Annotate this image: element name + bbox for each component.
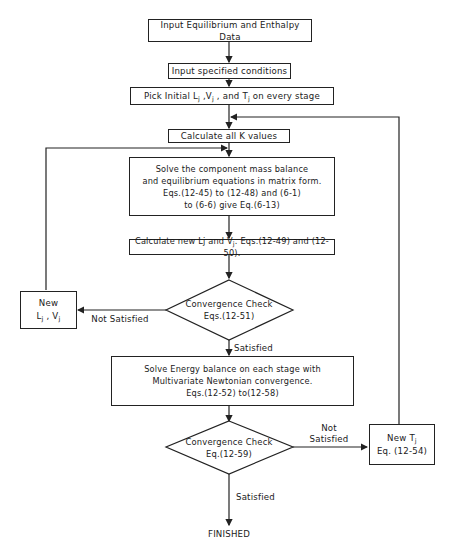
- calc-k-label: Calculate all K values: [181, 130, 277, 142]
- new-lv-box: New Lj , Vj: [20, 291, 77, 329]
- finished-label: FINISHED: [194, 529, 264, 540]
- new-t-box: New Tj Eq. (12-54): [369, 424, 435, 465]
- not-satisfied-label-2: Not Satisfied: [304, 423, 354, 445]
- input-conditions-label: Input specified conditions: [172, 65, 288, 77]
- calc-k-box: Calculate all K values: [168, 129, 290, 143]
- calc-new-lv-label: Calculate new Lj and Vj. Eqs.(12-49) and…: [130, 235, 334, 259]
- pick-initial-label: Pick Initial Lj ,Vj , and Tj on every st…: [144, 90, 320, 102]
- flowchart-connectors: [0, 0, 453, 553]
- solve-energy-balance-box: Solve Energy balance on each stage with …: [111, 356, 354, 406]
- new-t-label: New Tj Eq. (12-54): [377, 432, 427, 458]
- convergence-check-1-label: Convergence Check Eqs.(12-51): [176, 298, 282, 322]
- pick-initial-box: Pick Initial Lj ,Vj , and Tj on every st…: [130, 87, 334, 105]
- solve-mass-balance-label: Solve the component mass balance and equ…: [142, 163, 321, 211]
- input-conditions-box: Input specified conditions: [168, 63, 291, 79]
- new-lv-label: New Lj , Vj: [37, 297, 61, 323]
- solve-energy-balance-label: Solve Energy balance on each stage with …: [144, 363, 321, 399]
- satisfied-label-2: Satisfied: [236, 492, 286, 503]
- input-data-box: Input Equilibrium and Enthalpy Data: [148, 19, 312, 42]
- not-satisfied-label-1: Not Satisfied: [86, 314, 154, 325]
- satisfied-label-1: Satisfied: [234, 343, 284, 354]
- calc-new-lv-box: Calculate new Lj and Vj. Eqs.(12-49) and…: [129, 239, 335, 255]
- convergence-check-2-label: Convergence Check Eq.(12-59): [176, 436, 282, 460]
- solve-mass-balance-box: Solve the component mass balance and equ…: [129, 157, 335, 216]
- input-data-label: Input Equilibrium and Enthalpy Data: [149, 19, 311, 43]
